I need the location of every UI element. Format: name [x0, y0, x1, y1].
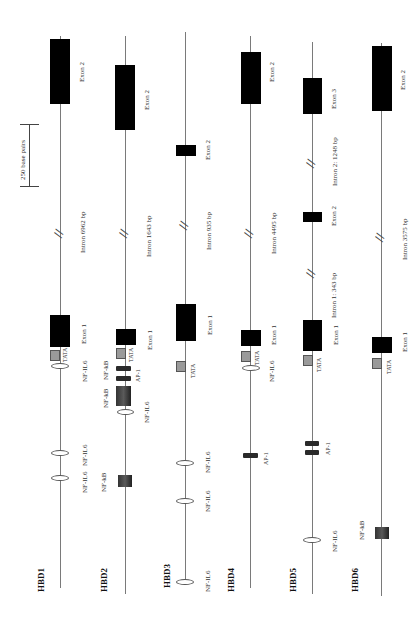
- tata-label: TATA: [254, 351, 260, 365]
- nf-kb-label: NF-kB: [102, 389, 110, 408]
- gene-name: HBD1: [36, 568, 46, 592]
- exon-2-label: Exon 2: [268, 62, 276, 82]
- intron-label: Intron 6962 bp: [79, 211, 87, 253]
- tata-label: TATA: [386, 360, 392, 374]
- gene-line: [381, 43, 382, 596]
- nf-kb-label: NF-kB: [358, 521, 366, 540]
- ap-1-site: [305, 450, 319, 455]
- nf-kb-site: [118, 475, 132, 487]
- exon-2-label: Exon 2: [399, 70, 407, 90]
- tata-label: TATA: [316, 358, 322, 372]
- break-mark: //: [52, 228, 65, 239]
- nf-il6-site: [176, 579, 194, 585]
- exon-2: [372, 46, 392, 111]
- nf-il6-label: NF-IL6: [143, 402, 151, 423]
- nf-il6-site: [117, 409, 134, 415]
- tata-label: TATA: [128, 348, 134, 362]
- gene-line: [250, 36, 251, 588]
- break-mark: //: [177, 220, 190, 231]
- gene-name: HBD5: [288, 568, 298, 592]
- exon-2: [176, 145, 196, 156]
- intron-label: Intron 3575 bp: [401, 218, 409, 260]
- exon-1: [372, 337, 392, 353]
- ap-1-label: AP-1: [135, 369, 141, 382]
- gene-name: HBD3: [162, 564, 172, 588]
- exon-2: [115, 65, 135, 130]
- gene-line: [312, 42, 313, 594]
- nf-il6-site: [51, 450, 69, 456]
- ap-1-site: [116, 366, 131, 371]
- nf-il6-label: NF-IL6: [81, 361, 89, 382]
- ap-1-site: [243, 453, 258, 458]
- nf-il6-site: [303, 537, 321, 543]
- exon-2-label: Exon 2: [204, 140, 212, 160]
- ap-1-label: AP-1: [263, 452, 269, 465]
- exon-1-label: Exon 1: [270, 325, 278, 345]
- nf-il6-label: NF-IL6: [204, 571, 212, 592]
- ap-1-site: [305, 441, 319, 446]
- nf-kb-label: NF-kB: [102, 361, 110, 380]
- nf-kb-label: NF-kB: [100, 473, 108, 492]
- nf-il6-site: [51, 363, 69, 369]
- nf-il6-label: NF-IL6: [268, 361, 276, 382]
- nf-il6-site: [242, 365, 260, 371]
- exon-3-label: Exon 3: [330, 89, 338, 109]
- intron-2-label: Intron 2: 1248 bp: [331, 137, 339, 186]
- intron-label: Intron 4495 bp: [270, 212, 278, 254]
- exon-1-label: Exon 1: [146, 330, 154, 350]
- nf-il6-site: [176, 498, 194, 504]
- scale-bar-label: 250 base pairs: [19, 140, 27, 180]
- nf-il6-label: NF-IL6: [331, 531, 339, 552]
- nf-il6-label: NF-IL6: [81, 472, 89, 493]
- nf-kb-site: [116, 386, 131, 406]
- break-mark: //: [373, 232, 386, 243]
- tata-box: [176, 361, 186, 372]
- intron-label: Intron 935 bp: [205, 212, 213, 250]
- ap-1-label: AP-1: [325, 442, 331, 455]
- nf-il6-site: [176, 460, 194, 466]
- gene-name: HBD2: [99, 568, 109, 592]
- exon-1-label: Exon 1: [80, 324, 88, 344]
- exon-1-label: Exon 1: [206, 315, 214, 335]
- gene-name: HBD4: [226, 568, 236, 592]
- intron-label: Intron 1643 bp: [145, 215, 153, 257]
- exon-2-label: Exon 2: [78, 62, 86, 82]
- nf-il6-site: [51, 475, 69, 481]
- tata-box: [241, 351, 251, 362]
- nf-il6-label: NF-IL6: [81, 445, 89, 466]
- exon-2: [303, 212, 322, 222]
- gene-line: [60, 36, 61, 588]
- gene-name: HBD6: [350, 568, 360, 592]
- exon-1: [116, 329, 136, 345]
- tata-label: TATA: [62, 348, 68, 362]
- exon-1: [303, 320, 322, 351]
- tata-box: [50, 350, 60, 361]
- break-mark: //: [304, 268, 317, 279]
- break-mark: //: [242, 228, 255, 239]
- exon-2: [50, 39, 70, 104]
- exon-1-label: Exon 1: [332, 325, 340, 345]
- exon-1: [176, 304, 196, 341]
- exon-3: [303, 78, 322, 114]
- exon-2: [241, 52, 261, 104]
- nf-il6-label: NF-IL6: [204, 491, 212, 512]
- exon-1: [241, 330, 261, 346]
- ap-1-site: [116, 376, 131, 381]
- exon-2-label: Exon 2: [330, 206, 338, 226]
- tata-box: [372, 358, 382, 369]
- nf-kb-site: [375, 527, 389, 539]
- tata-box: [116, 348, 126, 359]
- intron-1-label: Intron 1: 343 bp: [330, 273, 338, 318]
- exon-1-label: Exon 1: [401, 332, 409, 352]
- break-mark: //: [304, 158, 317, 169]
- tata-label: TATA: [190, 364, 196, 378]
- exon-2-label: Exon 2: [143, 90, 151, 110]
- tata-box: [303, 355, 313, 366]
- exon-1: [50, 315, 70, 347]
- break-mark: //: [117, 228, 130, 239]
- nf-il6-label: NF-IL6: [204, 452, 212, 473]
